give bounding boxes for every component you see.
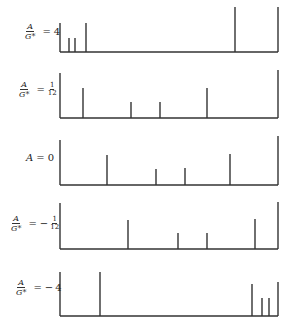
equals: = bbox=[36, 152, 44, 163]
panel-label-2: AG*=112 bbox=[18, 79, 57, 99]
lhs-fraction: AG* bbox=[15, 278, 27, 297]
equals: = bbox=[42, 26, 50, 37]
panel-label-4: AG*=−112 bbox=[10, 213, 59, 233]
panel-1 bbox=[60, 7, 278, 52]
panel-2 bbox=[60, 70, 278, 118]
rhs: 112 bbox=[48, 82, 57, 97]
rhs: −4 bbox=[45, 282, 62, 293]
panel-label-5: AG*=−4 bbox=[15, 277, 62, 297]
rhs: 4 bbox=[54, 26, 60, 37]
panel-3 bbox=[60, 136, 278, 185]
lhs-fraction: AG* bbox=[10, 214, 22, 233]
lhs: A bbox=[26, 152, 33, 163]
rhs: −112 bbox=[40, 216, 59, 231]
panel-4 bbox=[60, 202, 278, 249]
equals: = bbox=[33, 282, 41, 293]
lhs-fraction: AG* bbox=[24, 22, 36, 41]
panel-5 bbox=[60, 272, 278, 316]
panel-label-3: A=0 bbox=[26, 147, 54, 167]
equals: = bbox=[28, 218, 36, 229]
equals: = bbox=[36, 84, 44, 95]
rhs: 0 bbox=[48, 152, 54, 163]
lhs-fraction: AG* bbox=[18, 80, 30, 99]
panel-label-1: AG*=4 bbox=[24, 21, 60, 41]
